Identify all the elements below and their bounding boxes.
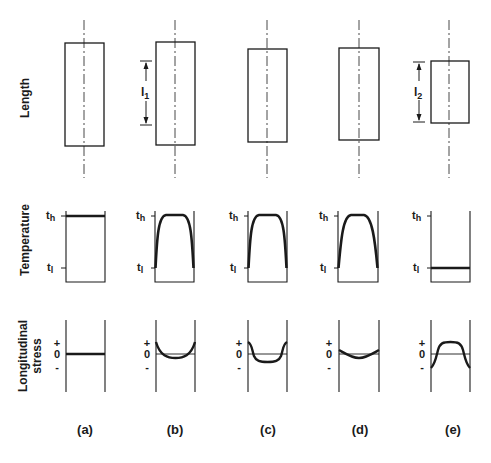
length-c bbox=[248, 20, 287, 178]
stress-curve bbox=[431, 342, 470, 368]
column-label-c: (c) bbox=[260, 422, 276, 437]
temperature-a: th tl bbox=[46, 209, 105, 282]
row-label-stress-2: stress bbox=[30, 338, 44, 374]
svg-text:-: - bbox=[327, 361, 331, 373]
tl-label: tl bbox=[47, 261, 53, 275]
svg-text:0: 0 bbox=[54, 348, 60, 360]
temperature-curve bbox=[339, 215, 378, 268]
length-b: l1 bbox=[140, 20, 195, 178]
th-label: th bbox=[319, 209, 328, 223]
th-label: th bbox=[229, 209, 238, 223]
svg-text:0: 0 bbox=[144, 348, 150, 360]
stress-d: + 0 - bbox=[326, 320, 379, 392]
tl-label: tl bbox=[320, 261, 326, 275]
temperature-e: th tl bbox=[412, 209, 470, 282]
svg-text:-: - bbox=[145, 361, 149, 373]
column-label-a: (a) bbox=[77, 422, 93, 437]
column-label-b: (b) bbox=[167, 422, 184, 437]
l1-label: l1 bbox=[141, 85, 149, 101]
stress-curve bbox=[248, 342, 287, 362]
stress-e: + 0 - bbox=[419, 320, 470, 392]
dimension-l2: l2 bbox=[413, 62, 425, 122]
length-d bbox=[339, 20, 379, 178]
row-label-stress-1: Longitudinal bbox=[16, 320, 30, 392]
svg-text:0: 0 bbox=[419, 348, 425, 360]
temperature-c: th tl bbox=[229, 209, 287, 282]
row-label-length: Length bbox=[18, 78, 32, 118]
dimension-l1: l1 bbox=[140, 61, 152, 125]
temperature-b: th tl bbox=[136, 209, 194, 282]
tl-label: tl bbox=[230, 261, 236, 275]
temperature-d: th tl bbox=[319, 209, 378, 282]
arrow-down-icon bbox=[144, 117, 149, 124]
stress-c: + 0 - bbox=[236, 320, 287, 392]
arrow-up-icon bbox=[417, 63, 422, 70]
th-label: th bbox=[136, 209, 145, 223]
svg-text:-: - bbox=[55, 361, 59, 373]
svg-text:-: - bbox=[237, 361, 241, 373]
column-label-e: (e) bbox=[445, 422, 461, 437]
cooling-stages-diagram: Length Temperature Longitudinal stress l… bbox=[0, 0, 491, 463]
tl-label: tl bbox=[137, 261, 143, 275]
svg-text:0: 0 bbox=[326, 348, 332, 360]
row-label-temperature: Temperature bbox=[18, 204, 32, 276]
arrow-down-icon bbox=[417, 114, 422, 121]
length-e: l2 bbox=[413, 20, 469, 178]
length-a bbox=[65, 20, 104, 178]
arrow-up-icon bbox=[144, 62, 149, 69]
l2-label: l2 bbox=[414, 85, 422, 101]
stress-curve bbox=[156, 342, 195, 358]
svg-text:-: - bbox=[420, 361, 424, 373]
stress-b: + 0 - bbox=[144, 320, 195, 392]
temperature-curve bbox=[156, 215, 194, 268]
tl-label: tl bbox=[413, 261, 419, 275]
th-label: th bbox=[46, 209, 55, 223]
th-label: th bbox=[412, 209, 421, 223]
temperature-curve bbox=[249, 215, 287, 268]
column-label-d: (d) bbox=[352, 422, 369, 437]
stress-a: + 0 - bbox=[54, 320, 105, 392]
svg-text:0: 0 bbox=[236, 348, 242, 360]
